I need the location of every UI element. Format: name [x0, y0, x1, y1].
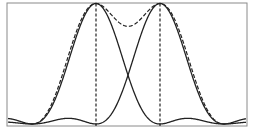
curve-source-2 [8, 4, 246, 125]
resolution-chart [0, 0, 253, 133]
curve-source-1 [8, 4, 246, 125]
plot-frame [7, 3, 247, 126]
curve-sum-envelope [35, 4, 221, 124]
